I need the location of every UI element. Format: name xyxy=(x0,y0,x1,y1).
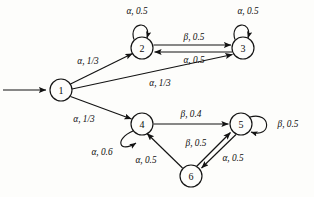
state-node-4[interactable]: 4 xyxy=(131,113,153,135)
transition-label-4-to-5: β, 0.4 xyxy=(180,109,202,119)
transition-label-2-to-2: α, 0.5 xyxy=(126,6,148,16)
state-label-1: 1 xyxy=(59,85,64,96)
state-node-6[interactable]: 6 xyxy=(180,165,202,187)
transition-label-5-to-6: α, 0.5 xyxy=(222,153,244,163)
state-label-6: 6 xyxy=(189,171,194,182)
state-node-3[interactable]: 3 xyxy=(232,37,254,59)
transition-label-1-to-4: α, 1/3 xyxy=(73,114,95,124)
transition-label-6-to-4: α, 0.5 xyxy=(135,155,157,165)
state-label-2: 2 xyxy=(140,43,145,54)
transition-label-4-to-4: α, 0.6 xyxy=(91,147,113,157)
fsm-canvas: 1 2 3 4 5 6 α, 1/3 α, 1/3 α, 1/3 α, 0.5 … xyxy=(0,0,314,197)
state-label-4: 4 xyxy=(140,119,145,130)
transition-label-3-to-2: α, 0.5 xyxy=(183,55,205,65)
state-label-5: 5 xyxy=(239,119,244,130)
transition-label-1-to-2: α, 1/3 xyxy=(77,56,99,66)
transition-label-6-to-5: β, 0.5 xyxy=(185,138,207,148)
fsm-diagram: 1 2 3 4 5 6 α, 1/3 α, 1/3 α, 1/3 α, 0.5 … xyxy=(0,0,314,197)
state-node-5[interactable]: 5 xyxy=(230,113,252,135)
self-loop-state-4 xyxy=(121,131,136,147)
transition-label-5-to-5: β, 0.5 xyxy=(277,119,299,129)
transition-label-3-to-3: α, 0.5 xyxy=(237,6,259,16)
state-node-1[interactable]: 1 xyxy=(50,79,72,101)
state-node-2[interactable]: 2 xyxy=(131,37,153,59)
transition-label-2-to-3: β, 0.5 xyxy=(183,32,205,42)
transition-label-1-to-3: α, 1/3 xyxy=(149,78,171,88)
state-label-3: 3 xyxy=(241,43,246,54)
